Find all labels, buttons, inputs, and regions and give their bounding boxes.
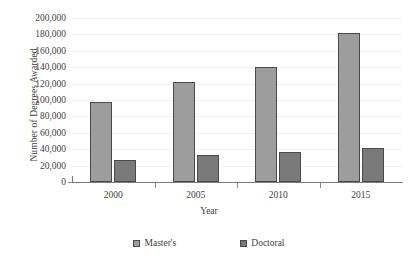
gridline <box>72 18 402 19</box>
x-axis-title: Year <box>0 206 418 216</box>
y-axis-tick-label: 120,000 <box>35 79 66 89</box>
bar <box>362 148 384 182</box>
bar <box>338 33 360 182</box>
bar <box>90 102 112 182</box>
y-axis-tick-label: 40,000 <box>40 144 66 154</box>
bar <box>279 152 301 182</box>
y-axis-tick-label: 140,000 <box>35 62 66 72</box>
chart-legend: Master'sDoctoral <box>0 238 418 248</box>
x-axis-tick-label: 2010 <box>269 190 288 200</box>
y-axis-tick-labels: 020,00040,00060,00080,000100,000120,0001… <box>0 0 72 200</box>
y-axis-tick-label: 160,000 <box>35 46 66 56</box>
bar <box>114 160 136 182</box>
bar <box>197 155 219 182</box>
legend-label: Doctoral <box>251 238 284 248</box>
bar-chart: Number of Degrees Awarded 020,00040,0006… <box>0 0 418 264</box>
y-axis-tick-label: 100,000 <box>35 95 66 105</box>
bar <box>173 82 195 182</box>
legend-swatch-icon <box>133 240 140 247</box>
x-axis-tick-mark <box>155 183 156 188</box>
y-axis-tick-label: 0 <box>61 177 66 187</box>
y-axis-tick-label: 180,000 <box>35 29 66 39</box>
y-axis-tick-label: 80,000 <box>40 111 66 121</box>
x-axis-tick-label: 2015 <box>351 190 370 200</box>
y-axis-tick-label: 60,000 <box>40 128 66 138</box>
legend-item[interactable]: Master's <box>133 238 176 248</box>
legend-item[interactable]: Doctoral <box>240 238 284 248</box>
legend-swatch-icon <box>240 240 247 247</box>
x-axis-tick-mark <box>320 183 321 188</box>
bar <box>255 67 277 182</box>
y-axis-tick-label: 20,000 <box>40 161 66 171</box>
legend-label: Master's <box>144 238 176 248</box>
x-axis-tick-mark <box>237 183 238 188</box>
plot-area <box>72 18 402 182</box>
x-axis-tick-label: 2005 <box>186 190 205 200</box>
y-axis-tick-label: 200,000 <box>35 13 66 23</box>
x-axis-tick-label: 2000 <box>104 190 123 200</box>
